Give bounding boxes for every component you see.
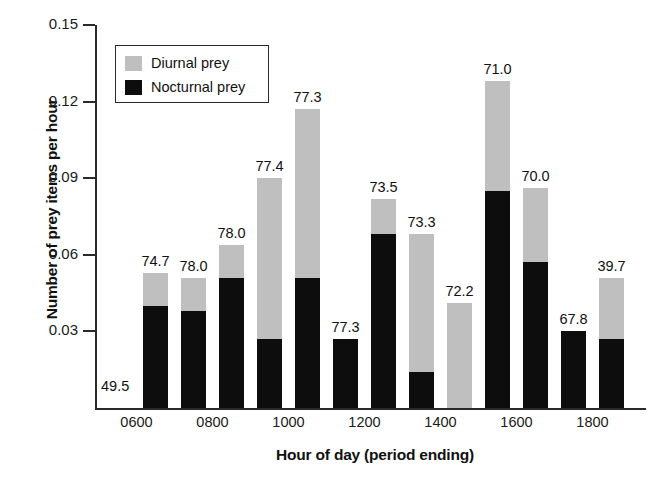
- bar-segment-nocturnal: [295, 278, 320, 408]
- bar-segment-nocturnal: [181, 311, 206, 408]
- bar-0900: 78.0: [219, 245, 244, 408]
- bar-value-label: 71.0: [468, 61, 528, 77]
- bar-segment-nocturnal: [333, 339, 358, 408]
- bar-value-label: 73.5: [354, 179, 414, 195]
- legend-item-diurnal: Diurnal prey: [125, 51, 268, 75]
- x-axis-title: Hour of day (period ending): [95, 446, 655, 464]
- bar-segment-diurnal: [447, 303, 472, 408]
- bar-1500: 72.2: [447, 303, 472, 408]
- bar-segment-nocturnal: [143, 306, 168, 408]
- bar-value-label: 70.0: [506, 168, 566, 184]
- bar-value-label: 77.3: [316, 319, 376, 335]
- chart-figure: Number of prey items per hour 0.030.060.…: [0, 0, 660, 484]
- bar-segment-nocturnal: [523, 262, 548, 408]
- bar-segment-diurnal: [143, 273, 168, 306]
- x-axis-tick-label: 1600: [487, 414, 547, 430]
- bar-segment-diurnal: [523, 188, 548, 262]
- legend-label-nocturnal: Nocturnal prey: [151, 80, 245, 95]
- x-axis-tick-label: 1000: [259, 414, 319, 430]
- x-axis-tick-label: 1400: [411, 414, 471, 430]
- bar-segment-diurnal: [409, 234, 434, 372]
- bar-value-label: 67.8: [544, 311, 604, 327]
- bar-value-label: 73.3: [392, 214, 452, 230]
- baseline-annotation: 49.5: [101, 378, 129, 394]
- bar-1700: 70.0: [523, 188, 548, 408]
- x-axis-tick-label: 1200: [335, 414, 395, 430]
- bar-1900: 39.7: [599, 278, 624, 408]
- legend-label-diurnal: Diurnal prey: [151, 56, 229, 71]
- bar-0800: 78.0: [181, 278, 206, 408]
- bar-segment-nocturnal: [561, 331, 586, 408]
- bar-1800: 67.8: [561, 331, 586, 408]
- bar-value-label: 77.4: [240, 158, 300, 174]
- bar-segment-nocturnal: [371, 234, 396, 408]
- legend-swatch-diurnal-icon: [125, 56, 142, 71]
- bar-segment-diurnal: [599, 278, 624, 339]
- bar-segment-diurnal: [257, 178, 282, 339]
- legend-swatch-nocturnal-icon: [125, 80, 142, 95]
- bar-segment-nocturnal: [599, 339, 624, 408]
- bar-segment-diurnal: [219, 245, 244, 278]
- bar-value-label: 78.0: [164, 258, 224, 274]
- bar-segment-nocturnal: [219, 278, 244, 408]
- bar-segment-nocturnal: [257, 339, 282, 408]
- bar-1000: 77.4: [257, 178, 282, 408]
- bar-value-label: 39.7: [582, 258, 642, 274]
- x-axis-tick-label: 1800: [563, 414, 623, 430]
- bar-value-label: 77.3: [278, 89, 338, 105]
- bar-value-label: 78.0: [202, 225, 262, 241]
- bar-segment-nocturnal: [409, 372, 434, 408]
- bar-segment-nocturnal: [485, 191, 510, 408]
- x-axis-tick-label: 0600: [107, 414, 167, 430]
- bar-1600: 71.0: [485, 81, 510, 408]
- bar-segment-diurnal: [295, 109, 320, 278]
- chart-legend: Diurnal prey Nocturnal prey: [115, 45, 269, 103]
- bar-1100: 77.3: [295, 109, 320, 408]
- bar-1200: 77.3: [333, 339, 358, 408]
- bar-1400: 73.3: [409, 234, 434, 408]
- bar-value-label: 72.2: [430, 283, 490, 299]
- bar-series-container: 74.778.078.077.477.377.373.573.372.271.0…: [0, 0, 660, 484]
- bar-segment-diurnal: [181, 278, 206, 311]
- bar-0700: 74.7: [143, 273, 168, 408]
- legend-item-nocturnal: Nocturnal prey: [125, 75, 268, 99]
- x-axis-tick-label: 0800: [183, 414, 243, 430]
